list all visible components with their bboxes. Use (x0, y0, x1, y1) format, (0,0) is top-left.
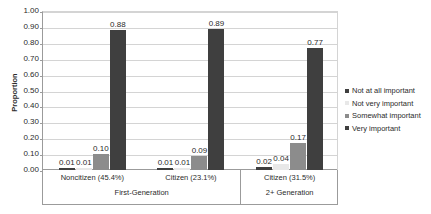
category-label: Citizen (31.5%) (240, 173, 339, 182)
bar-value-label: 0.01 (158, 159, 174, 167)
legend-swatch-icon (345, 114, 349, 118)
y-axis-tick-label: 0.40 (23, 102, 39, 110)
legend-label: Very important (352, 124, 400, 133)
legend-item[interactable]: Not at all important (345, 86, 431, 95)
bar[interactable]: 0.88 (110, 30, 126, 170)
y-axis-tick-label: 0.00 (23, 166, 39, 174)
bar-value-label: 0.89 (209, 20, 225, 28)
generation-group-label: First-Generation (43, 188, 240, 197)
category-group-separator (240, 170, 241, 204)
legend-label: Not at all important (352, 86, 415, 95)
plot-area: 0.010.010.100.880.010.010.090.890.020.04… (42, 11, 338, 170)
category-label: Citizen (23.1%) (142, 173, 241, 182)
y-axis-tick-label: 0.80 (23, 39, 39, 47)
bar-value-label: 0.02 (256, 158, 272, 166)
bar-value-label: 0.88 (110, 21, 126, 29)
bar-group-bars: 0.020.040.170.77 (240, 12, 339, 170)
bar-value-label: 0.17 (290, 134, 306, 142)
bar-group: 0.020.040.170.77 (240, 12, 339, 170)
legend-item[interactable]: Not very important (345, 99, 431, 108)
bar[interactable]: 0.10 (93, 154, 109, 170)
legend-label: Not very important (352, 99, 413, 108)
bar[interactable]: 0.89 (208, 29, 224, 171)
bar-value-label: 0.01 (59, 159, 75, 167)
bar-group-bars: 0.010.010.090.89 (142, 12, 241, 170)
bar-group: 0.010.010.100.88 (43, 12, 142, 170)
y-axis-tick-label: 0.30 (23, 118, 39, 126)
legend-swatch-icon (345, 126, 349, 130)
legend-item[interactable]: Somewhat important (345, 111, 431, 120)
bar-group-bars: 0.010.010.100.88 (43, 12, 142, 170)
y-axis-tick-label: 1.00 (23, 7, 39, 15)
y-axis-tick-label: 0.70 (23, 55, 39, 63)
category-axis: Noncitizen (45.4%)Citizen (23.1%)Citizen… (42, 170, 338, 205)
bar-value-label: 0.10 (93, 145, 109, 153)
bar-chart: Proportion 1.000.900.800.700.600.500.400… (0, 0, 431, 214)
legend-label: Somewhat important (352, 111, 421, 120)
category-label: Noncitizen (45.4%) (43, 173, 142, 182)
bar-value-label: 0.77 (307, 39, 323, 47)
legend-item[interactable]: Very important (345, 124, 431, 133)
legend: Not at all importantNot very importantSo… (345, 86, 431, 136)
y-axis-tick-labels: 1.000.900.800.700.600.500.400.300.200.10… (14, 11, 39, 170)
legend-swatch-icon (345, 101, 349, 105)
legend-swatch-icon (345, 89, 349, 93)
generation-group-label: 2+ Generation (240, 188, 339, 197)
bar-value-label: 0.01 (175, 159, 191, 167)
bar-group: 0.010.010.090.89 (142, 12, 241, 170)
y-axis-tick-label: 0.60 (23, 71, 39, 79)
bar-value-label: 0.01 (76, 159, 92, 167)
y-axis-tick-label: 0.10 (23, 150, 39, 158)
bar-value-label: 0.04 (273, 155, 289, 163)
bar[interactable]: 0.17 (290, 143, 306, 170)
bar[interactable]: 0.09 (191, 156, 207, 170)
y-axis-tick-label: 0.50 (23, 87, 39, 95)
bar-value-label: 0.09 (192, 147, 208, 155)
bar[interactable]: 0.77 (307, 48, 323, 170)
y-axis-tick-label: 0.20 (23, 134, 39, 142)
y-axis-tick-label: 0.90 (23, 23, 39, 31)
